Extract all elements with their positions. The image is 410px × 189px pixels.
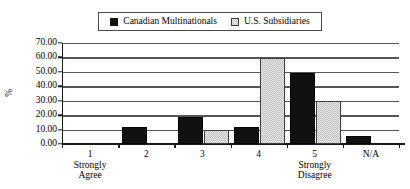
x-axis-label-main: 1 [88,149,93,159]
x-axis-label-2: 2 [144,149,149,160]
chart-plot-area [62,43,399,144]
y-tick-label: 70.00 [36,38,57,48]
x-axis-label-main: 4 [256,149,261,159]
x-tick-mark [62,144,63,148]
filled-black-square-icon [110,18,118,26]
x-axis-label-sub: Agree [74,170,107,181]
x-axis-label-main: 5 [312,149,317,159]
bar-4-canadian-multinationals [234,127,259,144]
x-axis-label-n-a: N/A [363,149,379,160]
bar-4-us-subsidiaries [260,58,285,144]
chart-legend: Canadian Multinationals U.S. Subsidiarie… [98,12,322,31]
y-tick-label: 30.00 [36,96,57,106]
x-axis-label-4: 4 [256,149,261,160]
y-tick-label: 20.00 [36,110,57,120]
y-axis-tick-labels: 70.00 60.00 50.00 40.00 30.00 20.00 10.0… [14,43,59,144]
bar-5-canadian-multinationals [290,73,315,144]
x-axis-label-5: 5StronglyDisagree [298,149,332,181]
legend-entry-canadian-multinationals: Canadian Multinationals [110,17,217,27]
bar-5-us-subsidiaries [316,101,341,144]
legend-label-us-subsidiaries: U.S. Subsidiaries [244,17,310,27]
x-axis-label-main: 3 [200,149,205,159]
x-axis-label-1: 1StronglyAgree [74,149,107,181]
legend-label-canadian-multinationals: Canadian Multinationals [123,17,217,27]
x-axis-label-sub: Disagree [298,170,332,181]
y-tick-label: 40.00 [36,82,57,92]
x-tick-mark [231,144,232,148]
x-tick-mark [174,144,175,148]
y-tick-label: 50.00 [36,67,57,77]
y-tick-label: 0.00 [40,139,57,149]
x-axis-label-main: N/A [363,149,379,159]
x-tick-mark [399,144,400,148]
y-tick-label: 10.00 [36,125,57,135]
x-tick-mark [287,144,288,148]
x-axis-label-3: 3 [200,149,205,160]
checkered-gray-square-icon [231,18,239,26]
y-tick-label: 60.00 [36,53,57,63]
x-axis-label-main: 2 [144,149,149,159]
x-axis-line [62,144,405,146]
bar-3-us-subsidiaries [204,130,229,144]
x-tick-mark [118,144,119,148]
x-tick-mark [343,144,344,148]
x-axis-label-sub: Strongly [298,160,332,171]
chart-bars [63,43,399,144]
bar-3-canadian-multinationals [178,117,203,144]
bar-2-canadian-multinationals [122,127,147,144]
x-axis-label-sub: Strongly [74,160,107,171]
legend-entry-us-subsidiaries: U.S. Subsidiaries [231,17,310,27]
